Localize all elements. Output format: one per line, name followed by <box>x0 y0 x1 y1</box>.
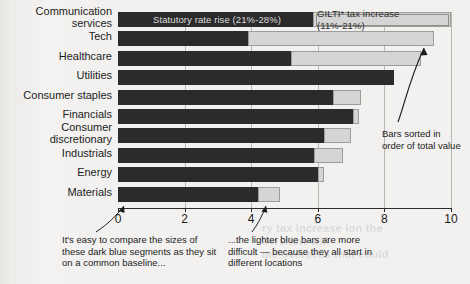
category-label: Consumer staples <box>6 89 112 101</box>
annotation-left-caption: It's easy to compare the sizes of these … <box>62 234 222 269</box>
annotation-right-caption: ...the lighter blue bars are more diffic… <box>228 234 378 269</box>
x-tick-label: 10 <box>444 212 457 226</box>
bar-row[interactable] <box>118 167 451 182</box>
bar-row[interactable] <box>118 109 451 124</box>
bar-segment-statutory[interactable] <box>118 167 318 182</box>
bar-row[interactable] <box>118 31 451 46</box>
x-tick-label: 8 <box>381 212 388 226</box>
category-label: Tech <box>6 30 112 42</box>
category-label: Healthcare <box>6 50 112 62</box>
bar-segment-statutory[interactable] <box>118 51 291 66</box>
annotation-bars-sorted: Bars sorted in order of total value <box>382 128 462 151</box>
stacked-bar-chart: Communication servicesTechHealthcareUtil… <box>0 0 470 284</box>
category-label: Communication services <box>6 5 112 29</box>
bar-segment-gilti[interactable] <box>318 167 325 182</box>
x-tick-label: 2 <box>181 212 188 226</box>
bar-segment-statutory[interactable] <box>118 148 314 163</box>
x-tick-label: 4 <box>248 212 255 226</box>
bar-segment-statutory[interactable] <box>118 70 394 85</box>
bar-segment-statutory[interactable] <box>118 109 353 124</box>
bar-segment-gilti[interactable] <box>353 109 360 124</box>
bar-segment-statutory[interactable] <box>118 128 324 143</box>
category-label: Utilities <box>6 69 112 81</box>
legend-statutory-rate-rise: Statutory rate rise (21%-28%) <box>126 14 308 26</box>
x-tick-label: 0 <box>115 212 122 226</box>
bar-segment-gilti[interactable] <box>314 148 342 163</box>
bar-row[interactable] <box>118 90 451 105</box>
bar-row[interactable] <box>118 187 451 202</box>
bar-row[interactable] <box>118 70 451 85</box>
bar-segment-gilti[interactable] <box>333 90 361 105</box>
x-axis-line <box>118 208 452 209</box>
bar-segment-statutory[interactable] <box>118 187 258 202</box>
bar-segment-gilti[interactable] <box>324 128 351 143</box>
bar-segment-gilti[interactable] <box>291 51 421 66</box>
legend-gilti-tax-increase: GILTI* tax increase (11%-21%) <box>316 14 449 26</box>
category-axis-labels: Communication servicesTechHealthcareUtil… <box>4 12 112 208</box>
category-label: Industrials <box>6 147 112 159</box>
bar-segment-gilti[interactable] <box>258 187 280 202</box>
plot-area <box>118 12 451 208</box>
category-label: Consumer discretionary <box>6 121 112 145</box>
category-label: Materials <box>6 186 112 198</box>
category-label: Financials <box>6 108 112 120</box>
x-tick-label: 6 <box>314 212 321 226</box>
bar-segment-statutory[interactable] <box>118 31 248 46</box>
gridline <box>451 12 452 208</box>
bar-row[interactable] <box>118 51 451 66</box>
category-label: Energy <box>6 166 112 178</box>
bar-segment-statutory[interactable] <box>118 90 333 105</box>
bar-segment-gilti[interactable] <box>248 31 434 46</box>
